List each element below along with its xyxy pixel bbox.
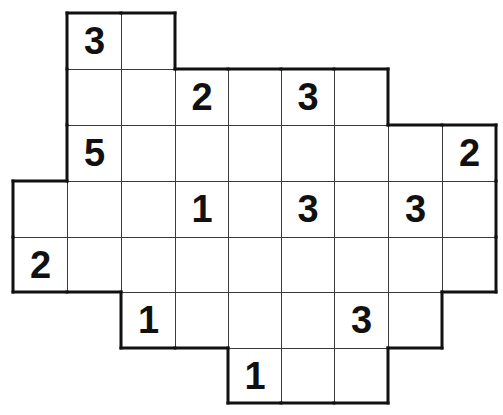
clue-number: 3 — [84, 20, 105, 63]
grid-cell[interactable] — [334, 125, 389, 182]
grid-cell[interactable] — [121, 237, 176, 293]
grid-cell[interactable]: 1 — [121, 292, 176, 349]
grid-cell[interactable] — [442, 181, 497, 238]
clue-number: 1 — [191, 188, 212, 231]
grid-cell[interactable] — [228, 181, 282, 238]
clue-number: 3 — [297, 76, 318, 119]
puzzle-board: 323521332131 — [0, 0, 503, 415]
clue-number: 5 — [84, 132, 105, 175]
grid-cell[interactable] — [228, 125, 282, 182]
grid-cell[interactable] — [121, 13, 176, 70]
grid-cell[interactable] — [228, 237, 282, 293]
grid-cell[interactable]: 3 — [281, 69, 335, 126]
grid-cell[interactable] — [388, 292, 443, 349]
grid-cell[interactable] — [67, 181, 122, 238]
clue-number: 2 — [191, 76, 212, 119]
grid-cell[interactable]: 3 — [281, 181, 335, 238]
grid-cell[interactable] — [175, 125, 229, 182]
grid-cell[interactable]: 3 — [67, 13, 122, 70]
grid-cell[interactable]: 2 — [175, 69, 229, 126]
grid-cell[interactable]: 3 — [334, 292, 389, 349]
grid-cell[interactable] — [334, 348, 389, 404]
grid-cell[interactable]: 2 — [442, 125, 497, 182]
grid-cell[interactable] — [67, 69, 122, 126]
grid-cell[interactable] — [175, 292, 229, 349]
clue-number: 2 — [30, 244, 51, 287]
grid-cell[interactable] — [334, 69, 389, 126]
grid-cell[interactable] — [121, 125, 176, 182]
grid-cell[interactable] — [121, 181, 176, 238]
grid-cell[interactable]: 1 — [175, 181, 229, 238]
grid-cell[interactable]: 3 — [388, 181, 443, 238]
grid-cell[interactable] — [334, 237, 389, 293]
grid-cell[interactable] — [228, 292, 282, 349]
clue-number: 3 — [405, 188, 426, 231]
grid-cell[interactable] — [281, 348, 335, 404]
grid-cell[interactable] — [121, 69, 176, 126]
grid-cell[interactable] — [13, 181, 68, 238]
grid-cell[interactable]: 1 — [228, 348, 282, 404]
grid-cell[interactable] — [67, 237, 122, 293]
clue-number: 1 — [244, 355, 265, 398]
clue-number: 1 — [138, 299, 159, 342]
grid-cell[interactable] — [228, 69, 282, 126]
grid-cell[interactable] — [388, 125, 443, 182]
grid-cell[interactable] — [442, 237, 497, 293]
clue-number: 3 — [351, 299, 372, 342]
grid-cell[interactable] — [281, 125, 335, 182]
clue-number: 3 — [297, 188, 318, 231]
grid-cell[interactable] — [281, 237, 335, 293]
clue-number: 2 — [459, 132, 480, 175]
grid-cell[interactable] — [281, 292, 335, 349]
grid-cell[interactable] — [334, 181, 389, 238]
grid-cell[interactable] — [388, 237, 443, 293]
grid-cell[interactable]: 2 — [13, 237, 68, 293]
grid-cell[interactable]: 5 — [67, 125, 122, 182]
grid-cell[interactable] — [175, 237, 229, 293]
